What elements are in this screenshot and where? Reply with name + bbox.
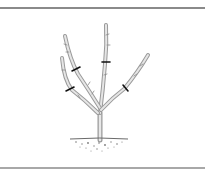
frame-bottom-border <box>0 167 205 169</box>
tree-pruning-illustration <box>0 0 205 176</box>
tree <box>62 25 148 140</box>
